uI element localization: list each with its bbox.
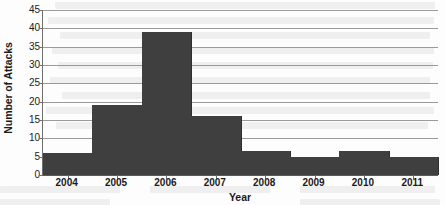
y-axis-tickmark: [39, 28, 43, 29]
plot-area: [42, 10, 438, 176]
chart-screenshot: Number of Attacks 051015202530354045 200…: [0, 0, 445, 205]
y-axis-title-text: Number of Attacks: [2, 42, 14, 133]
x-axis-tick-label: 2006: [154, 178, 176, 188]
y-axis-tickmark: [39, 47, 43, 48]
y-axis-tick-label: 25: [20, 78, 40, 88]
y-axis-tick-label: 10: [20, 133, 40, 143]
x-axis-tick-label: 2010: [352, 178, 374, 188]
y-axis-tick-label: 30: [20, 60, 40, 70]
x-axis-tick-label: 2011: [401, 178, 423, 188]
bar: [290, 157, 340, 175]
x-axis-tick-label: 2009: [302, 178, 324, 188]
y-axis-tick-label: 45: [20, 5, 40, 15]
y-axis-tick-label: 0: [20, 170, 40, 180]
bar: [92, 105, 142, 175]
gridline: [43, 102, 438, 103]
gridline: [43, 83, 438, 84]
x-axis-tick-label: 2005: [105, 178, 127, 188]
y-axis-tick-label: 20: [20, 97, 40, 107]
x-axis-tick-label: 2004: [56, 178, 78, 188]
y-axis-tickmark: [39, 10, 43, 11]
bar: [43, 153, 93, 175]
y-axis-tickmark: [39, 102, 43, 103]
gridline: [43, 28, 438, 29]
y-axis-tickmark: [39, 83, 43, 84]
y-axis-tick-label: 40: [20, 23, 40, 33]
x-axis-tick-label: 2008: [253, 178, 275, 188]
y-axis-tickmark: [39, 175, 43, 176]
bar-chart: Number of Attacks 051015202530354045 200…: [0, 0, 445, 205]
gridline: [43, 10, 438, 11]
bar: [339, 151, 389, 175]
x-axis-tick-label: 2007: [204, 178, 226, 188]
y-axis-tick-label: 5: [20, 152, 40, 162]
x-axis-tick-labels: 20042005200620072008200920102011: [42, 178, 438, 192]
gridline: [43, 65, 438, 66]
y-axis-title: Number of Attacks: [0, 0, 16, 176]
y-axis-tick-label: 35: [20, 42, 40, 52]
y-axis-tick-labels: 051015202530354045: [16, 0, 40, 176]
y-axis-tick-label: 15: [20, 115, 40, 125]
y-axis-tickmark: [39, 120, 43, 121]
x-axis-title: Year: [42, 192, 438, 203]
gridline: [43, 47, 438, 48]
bar: [191, 116, 241, 175]
y-axis-tickmark: [39, 65, 43, 66]
y-axis-tickmark: [39, 138, 43, 139]
bar: [389, 157, 439, 175]
bar: [241, 151, 291, 175]
bar: [142, 32, 192, 175]
